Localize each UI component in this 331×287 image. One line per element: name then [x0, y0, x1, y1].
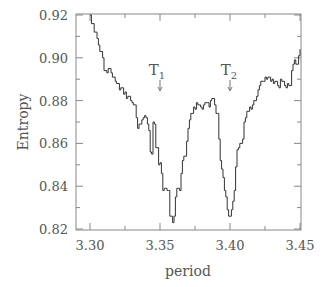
svg-text:T1: T1	[149, 61, 165, 81]
x-tick-label: 3.30	[76, 238, 105, 253]
plot-frame	[76, 14, 301, 230]
svg-text:T2: T2	[221, 61, 237, 81]
y-axis-tick-labels: 0.820.840.860.880.900.92	[39, 8, 68, 237]
entropy-chart: 3.303.353.403.45 0.820.840.860.880.900.9…	[0, 0, 331, 287]
y-tick-label: 0.90	[39, 51, 68, 66]
x-tick-label: 3.40	[216, 238, 245, 253]
y-tick-label: 0.82	[39, 222, 68, 237]
x-tick-label: 3.45	[286, 238, 315, 253]
y-tick-label: 0.86	[39, 136, 68, 151]
y-axis-ticks	[76, 15, 301, 229]
y-tick-label: 0.84	[39, 179, 68, 194]
y-tick-label: 0.92	[39, 8, 68, 23]
x-axis-ticks	[90, 14, 300, 230]
x-axis-tick-labels: 3.303.353.403.45	[76, 238, 315, 253]
entropy-line	[90, 15, 300, 223]
annotation-t1: T1	[149, 61, 165, 91]
x-tick-label: 3.35	[146, 238, 175, 253]
x-axis-label: period	[165, 263, 211, 279]
y-tick-label: 0.88	[39, 94, 68, 109]
y-axis-label: Entropy	[15, 93, 31, 150]
annotation-t2: T2	[221, 61, 237, 91]
